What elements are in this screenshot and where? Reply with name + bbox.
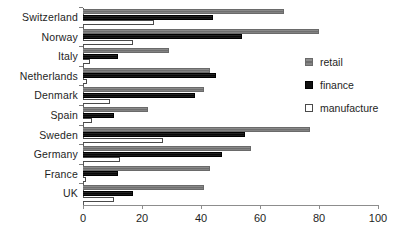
x-axis-tick-label: 20: [127, 212, 157, 225]
x-axis-tick-label: 60: [245, 212, 275, 225]
bar-finance-spain: [83, 113, 114, 118]
bar-finance-denmark: [83, 93, 195, 98]
y-axis-tick: [79, 85, 83, 86]
category-label-norway: Norway: [0, 32, 78, 43]
y-axis-tick: [79, 7, 83, 8]
bar-retail-italy: [83, 48, 169, 53]
x-axis-tick: [201, 205, 202, 209]
category-label-uk: UK: [0, 188, 78, 199]
legend-item-retail[interactable]: retail: [305, 52, 378, 71]
y-axis-tick: [79, 66, 83, 67]
category-label-spain: Spain: [0, 110, 78, 121]
x-axis-tick: [83, 205, 84, 209]
bar-retail-sweden: [83, 127, 310, 132]
bar-finance-germany: [83, 152, 222, 157]
bar-retail-norway: [83, 29, 319, 34]
x-axis-line: [83, 205, 379, 206]
bar-retail-france: [83, 166, 210, 171]
bar-retail-denmark: [83, 87, 204, 92]
legend-item-manufacture[interactable]: manufacture: [305, 98, 378, 117]
x-axis-tick-label: 80: [304, 212, 334, 225]
bar-manufacture-norway: [83, 40, 133, 45]
legend-label-finance: finance: [320, 79, 354, 91]
y-axis-tick: [79, 183, 83, 184]
bar-finance-switzerland: [83, 15, 213, 20]
bar-manufacture-switzerland: [83, 20, 154, 25]
x-axis-tick: [142, 205, 143, 209]
bar-manufacture-italy: [83, 59, 90, 64]
bar-manufacture-sweden: [83, 138, 163, 143]
bar-chart: SwitzerlandNorwayItalyNetherlandsDenmark…: [0, 0, 399, 241]
bar-manufacture-netherlands: [83, 79, 87, 84]
x-axis-tick: [319, 205, 320, 209]
bar-finance-sweden: [83, 132, 245, 137]
chart-legend: retailfinancemanufacture: [305, 52, 378, 121]
bar-manufacture-germany: [83, 157, 120, 162]
x-axis-tick: [260, 205, 261, 209]
legend-swatch-retail: [305, 58, 313, 66]
bar-manufacture-denmark: [83, 99, 110, 104]
category-label-switzerland: Switzerland: [0, 12, 78, 23]
bar-retail-netherlands: [83, 68, 210, 73]
category-label-italy: Italy: [0, 51, 78, 62]
category-label-germany: Germany: [0, 149, 78, 160]
bar-retail-switzerland: [83, 9, 284, 14]
bar-retail-germany: [83, 146, 251, 151]
bar-finance-france: [83, 171, 118, 176]
x-axis-tick-label: 100: [363, 212, 393, 225]
y-axis-tick: [79, 164, 83, 165]
category-axis-labels: SwitzerlandNorwayItalyNetherlandsDenmark…: [0, 8, 78, 205]
bar-retail-uk: [83, 185, 204, 190]
legend-label-manufacture: manufacture: [320, 102, 378, 114]
bar-finance-netherlands: [83, 73, 216, 78]
y-axis-tick: [79, 125, 83, 126]
x-axis-tick-label: 40: [186, 212, 216, 225]
category-label-sweden: Sweden: [0, 130, 78, 141]
category-label-france: France: [0, 169, 78, 180]
x-axis-tick: [378, 205, 379, 209]
bar-manufacture-france: [83, 177, 86, 182]
y-axis-tick: [79, 144, 83, 145]
bar-manufacture-uk: [83, 197, 114, 202]
legend-swatch-manufacture: [305, 104, 313, 112]
bar-manufacture-spain: [83, 118, 92, 123]
y-axis-tick: [79, 27, 83, 28]
y-axis-tick: [79, 46, 83, 47]
legend-label-retail: retail: [320, 56, 343, 68]
x-axis-tick-label: 0: [68, 212, 98, 225]
bar-retail-spain: [83, 107, 148, 112]
y-axis-tick: [79, 105, 83, 106]
category-label-netherlands: Netherlands: [0, 71, 78, 82]
bar-finance-italy: [83, 54, 118, 59]
category-label-denmark: Denmark: [0, 90, 78, 101]
legend-swatch-finance: [305, 81, 313, 89]
bar-finance-uk: [83, 191, 133, 196]
legend-item-finance[interactable]: finance: [305, 75, 378, 94]
bar-finance-norway: [83, 34, 242, 39]
